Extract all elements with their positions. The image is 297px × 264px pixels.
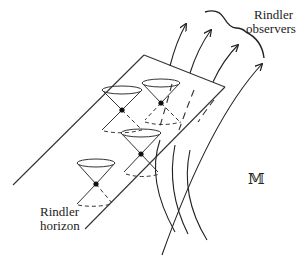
light-cone-2 — [142, 79, 181, 125]
horizon-label-line2: horizon — [40, 219, 80, 233]
horizon-plane — [13, 55, 225, 229]
rindler-horizon-label: Rindler horizon — [40, 205, 80, 233]
outer-worldline — [162, 64, 262, 255]
observers-label-line1: Rindler — [246, 8, 296, 22]
minkowski-space-label: 𝕄 — [248, 172, 265, 186]
observer-worldlines-lower — [155, 140, 207, 240]
light-cone-3 — [121, 129, 161, 177]
horizon-label-line1: Rindler — [40, 205, 80, 219]
observers-label-line2: observers — [246, 22, 296, 36]
light-cone-4 — [77, 159, 115, 206]
rindler-diagram: Rindler observers Rindler horizon 𝕄 — [0, 0, 297, 264]
rindler-observers-label: Rindler observers — [246, 8, 296, 36]
observer-worldlines-upper — [162, 24, 262, 255]
light-cone-1 — [102, 86, 142, 133]
